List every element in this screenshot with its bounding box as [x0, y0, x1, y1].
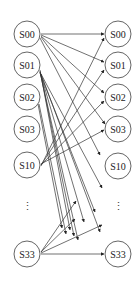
- right-node-s10: S10: [105, 153, 131, 179]
- right-node-s33: S33: [105, 241, 131, 267]
- left-node-s03: S03: [14, 116, 40, 142]
- ellipsis: ⋮: [22, 200, 33, 212]
- node-label: S33: [19, 249, 35, 260]
- node-label: S10: [19, 160, 35, 171]
- right-node-s00: S00: [105, 21, 131, 47]
- node-label: S01: [110, 60, 126, 71]
- edges: [38, 34, 105, 254]
- state-transition-diagram: S00S01S02S03S10S33 S00S01S02S03S10S33 ⋮⋮: [0, 0, 140, 282]
- node-label: S10: [110, 161, 126, 172]
- left-node-s01: S01: [14, 52, 40, 78]
- right-node-s01: S01: [105, 52, 131, 78]
- node-label: S01: [19, 60, 35, 71]
- left-node-s00: S00: [14, 21, 40, 47]
- left-node-s33: S33: [14, 241, 40, 267]
- node-label: S03: [19, 124, 35, 135]
- transition-arrow: [41, 74, 102, 188]
- left-node-s10: S10: [14, 152, 40, 178]
- right-node-s03: S03: [105, 116, 131, 142]
- transition-arrow: [41, 219, 75, 252]
- right-column-nodes: S00S01S02S03S10S33: [105, 21, 131, 267]
- node-label: S00: [19, 29, 35, 40]
- transition-arrow: [41, 37, 105, 124]
- ellipsis: ⋮: [113, 200, 124, 212]
- node-label: S33: [110, 249, 126, 260]
- left-node-s02: S02: [14, 84, 40, 110]
- node-label: S03: [110, 124, 126, 135]
- node-label: S00: [110, 29, 126, 40]
- node-label: S02: [110, 92, 126, 103]
- node-label: S02: [19, 92, 35, 103]
- left-column-nodes: S00S01S02S03S10S33: [14, 21, 40, 267]
- right-node-s02: S02: [105, 84, 131, 110]
